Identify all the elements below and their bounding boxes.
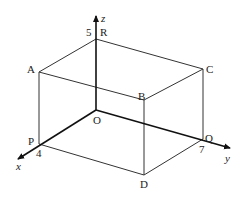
y-axis-label: y (224, 152, 230, 164)
x-tick-4: 4 (36, 147, 42, 159)
z-axis-label: z (100, 12, 106, 24)
edge-PD (39, 144, 144, 175)
vertex-O: O (93, 114, 101, 126)
edge-QD (144, 139, 203, 175)
vertex-P: P (28, 135, 34, 147)
axes (18, 16, 230, 159)
edge-RA (39, 39, 96, 72)
edge-CB (144, 69, 203, 100)
vertex-C: C (206, 63, 213, 75)
y-tick-7: 7 (199, 143, 205, 155)
cuboid-diagram: z x y 5 4 7 R A C B O P Q D (0, 0, 240, 197)
vertex-Q: Q (205, 132, 213, 144)
z-tick-5: 5 (86, 26, 92, 38)
vertex-B: B (138, 90, 145, 102)
vertex-A: A (27, 63, 35, 75)
vertex-D: D (140, 178, 148, 190)
cuboid-edges (39, 39, 203, 175)
edge-RC (96, 39, 203, 69)
x-axis-label: x (15, 160, 21, 172)
edge-AB (39, 72, 144, 100)
vertex-R: R (100, 26, 108, 38)
